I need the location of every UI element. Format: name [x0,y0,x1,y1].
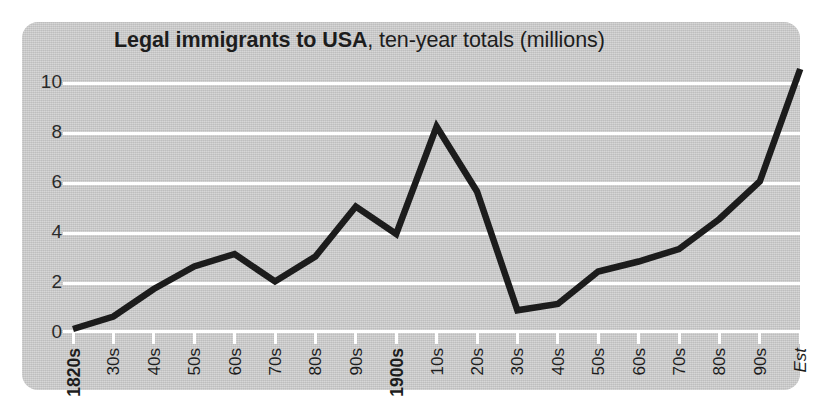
x-tick-3 [193,333,196,344]
x-tick-16 [718,333,721,344]
x-tick-15 [678,333,681,344]
x-tick-10 [476,333,479,344]
x-tick-label-80s-16: 80s [710,348,730,375]
x-tick-5 [274,333,277,344]
x-tick-label-60s-4: 60s [226,348,246,375]
x-tick-17 [758,333,761,344]
x-tick-label-1820s-0: 1820s [64,348,85,397]
x-tick-12 [556,333,559,344]
x-tick-label-est-18: Est [791,348,811,373]
x-tick-2 [152,333,155,344]
x-tick-18 [799,333,802,344]
x-tick-14 [637,333,640,344]
x-tick-13 [597,333,600,344]
x-tick-0 [72,333,75,344]
x-tick-4 [233,333,236,344]
chart-screenshot: Legal immigrants to USA, ten-year totals… [0,0,822,416]
x-tick-11 [516,333,519,344]
x-tick-label-1900s-8: 1900s [387,348,408,397]
x-tick-6 [314,333,317,344]
x-tick-label-40s-12: 40s [549,348,569,375]
x-tick-label-90s-17: 90s [751,348,771,375]
x-tick-label-20s-10: 20s [468,348,488,375]
x-tick-label-50s-3: 50s [185,348,205,375]
x-tick-label-10s-9: 10s [428,348,448,375]
series-line-path [73,69,800,329]
x-tick-label-90s-7: 90s [347,348,367,375]
x-tick-label-30s-11: 30s [508,348,528,375]
x-tick-label-70s-15: 70s [670,348,690,375]
x-tick-9 [435,333,438,344]
x-tick-label-60s-14: 60s [630,348,650,375]
x-tick-label-70s-5: 70s [266,348,286,375]
x-tick-label-40s-2: 40s [145,348,165,375]
x-tick-label-30s-1: 30s [104,348,124,375]
x-tick-label-50s-13: 50s [589,348,609,375]
x-tick-7 [354,333,357,344]
x-tick-label-80s-6: 80s [306,348,326,375]
x-tick-8 [395,333,398,344]
x-tick-1 [112,333,115,344]
